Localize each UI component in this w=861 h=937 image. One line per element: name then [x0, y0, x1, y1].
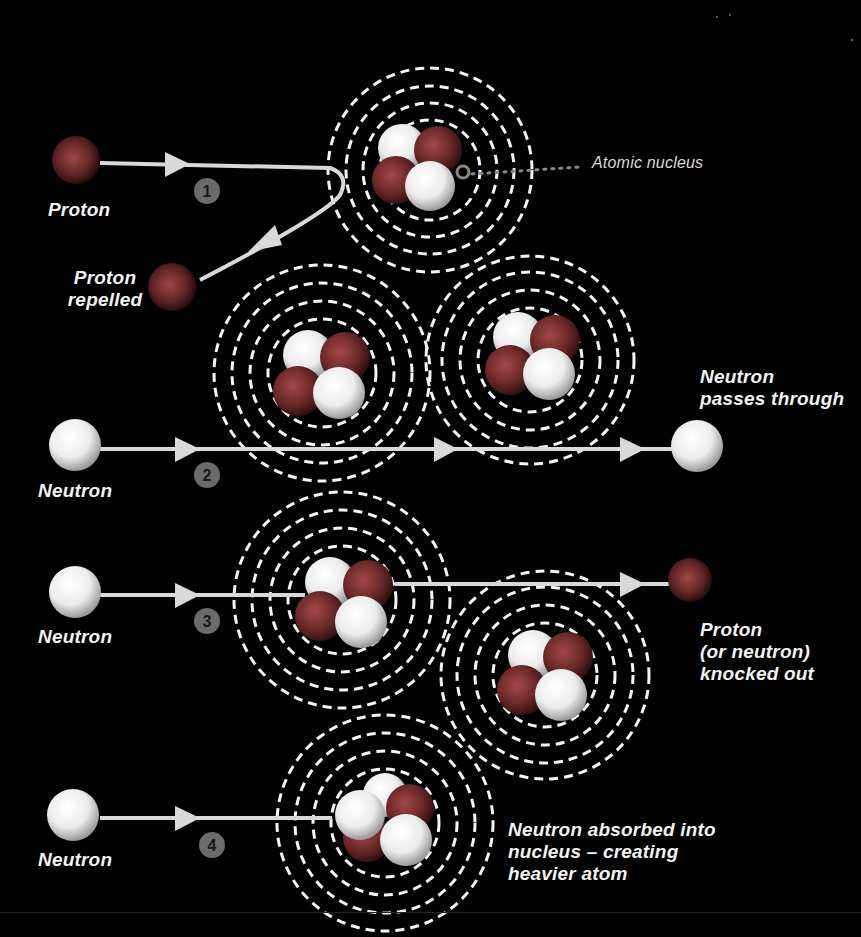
- step-badges: 1 2 3 4: [194, 178, 225, 858]
- neutron-incoming-3: [49, 566, 101, 618]
- arrow-2a-icon: [175, 437, 200, 462]
- nucleus-atom-mid-right: [485, 312, 580, 400]
- nucleus-atom-bottom: [335, 773, 434, 866]
- bottom-divider: [0, 912, 861, 913]
- diagram-graphics: 1 2 3 4: [0, 0, 861, 937]
- knocked-out-label: Proton (or neutron) knocked out: [700, 619, 814, 685]
- atomic-nucleus-callout: [457, 166, 580, 178]
- decorative-dots: [716, 14, 853, 41]
- arrow-4-icon: [175, 806, 200, 831]
- step-badge-3: 3: [194, 608, 220, 634]
- neutron-label-4: Neutron: [38, 849, 112, 871]
- proton-knocked-out: [668, 558, 712, 602]
- absorbed-line2: nucleus – creating: [508, 841, 716, 863]
- neutron-passes-line1: Neutron: [700, 366, 844, 388]
- arrow-3-out-icon: [620, 572, 645, 597]
- proton-repelled-line1: Proton: [62, 267, 148, 289]
- arrow-1-out-icon: [248, 225, 282, 252]
- neutron-label-3: Neutron: [38, 626, 112, 648]
- absorbed-line3: heavier atom: [508, 863, 716, 885]
- svg-text:1: 1: [203, 183, 212, 200]
- svg-text:2: 2: [203, 467, 212, 484]
- arrow-1-in-icon: [165, 152, 190, 177]
- nucleus-atom-top: [372, 124, 462, 211]
- path-1-incoming: [100, 163, 343, 280]
- neutron-passed-through: [671, 420, 723, 472]
- free-particles: [47, 136, 723, 841]
- absorbed-line1: Neutron absorbed into: [508, 819, 716, 841]
- nucleus-atom-mid-left: [273, 330, 370, 419]
- proton-label-1: Proton: [48, 199, 110, 221]
- nucleus-atom-row3-right: [497, 630, 593, 721]
- svg-text:3: 3: [203, 613, 212, 630]
- proton-repelled-label: Proton repelled: [62, 267, 148, 311]
- neutron-incoming-2: [49, 419, 101, 471]
- neutron-label-2: Neutron: [38, 480, 112, 502]
- neutron-passes-line2: passes through: [700, 388, 844, 410]
- arrow-3-in-icon: [175, 583, 200, 608]
- step-badge-4: 4: [199, 832, 225, 858]
- absorbed-label: Neutron absorbed into nucleus – creating…: [508, 819, 716, 885]
- proton-repelled-line2: repelled: [62, 289, 148, 311]
- svg-text:4: 4: [208, 837, 217, 854]
- path-arrows: [165, 152, 645, 831]
- step-badge-1: 1: [194, 178, 220, 204]
- neutron-incoming-4: [47, 789, 99, 841]
- particle-paths: [100, 163, 672, 818]
- proton-incoming-1: [52, 136, 100, 184]
- neutron-passes-label: Neutron passes through: [700, 366, 844, 410]
- arrow-2c-icon: [620, 437, 645, 462]
- nucleus-atom-row3-left: [295, 557, 393, 648]
- arrow-2b-icon: [434, 437, 458, 462]
- knocked-out-line3: knocked out: [700, 663, 814, 685]
- knocked-out-line2: (or neutron): [700, 641, 814, 663]
- atomic-nucleus-label: Atomic nucleus: [592, 152, 703, 174]
- step-badge-2: 2: [194, 462, 220, 488]
- proton-repelled: [148, 263, 196, 311]
- knocked-out-line1: Proton: [700, 619, 814, 641]
- diagram-canvas: 1 2 3 4: [0, 0, 861, 937]
